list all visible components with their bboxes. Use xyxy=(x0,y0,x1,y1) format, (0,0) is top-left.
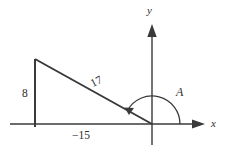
x-axis-label: x xyxy=(211,118,216,129)
triangle-hypotenuse xyxy=(35,59,152,124)
y-axis-arrowhead xyxy=(147,24,156,37)
trig-triangle-figure: y x 8 17 −15 A xyxy=(0,0,227,155)
angle-arc xyxy=(128,96,181,124)
horizontal-leg-label: −15 xyxy=(72,130,90,142)
x-axis-arrowhead xyxy=(192,120,205,129)
diagram-canvas xyxy=(0,0,227,155)
y-axis-label: y xyxy=(147,5,152,16)
vertical-leg-label: 8 xyxy=(22,88,28,100)
angle-label: A xyxy=(176,86,183,98)
